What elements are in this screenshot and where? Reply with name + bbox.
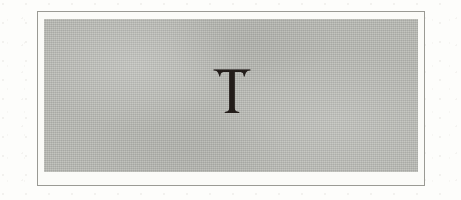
- plate-frame-border: T: [37, 11, 425, 186]
- dropcap-container: T: [44, 19, 418, 172]
- dropcap-letter-t-icon: [212, 67, 252, 117]
- scanned-page: T: [0, 0, 461, 200]
- grey-plate-panel: T: [44, 19, 418, 172]
